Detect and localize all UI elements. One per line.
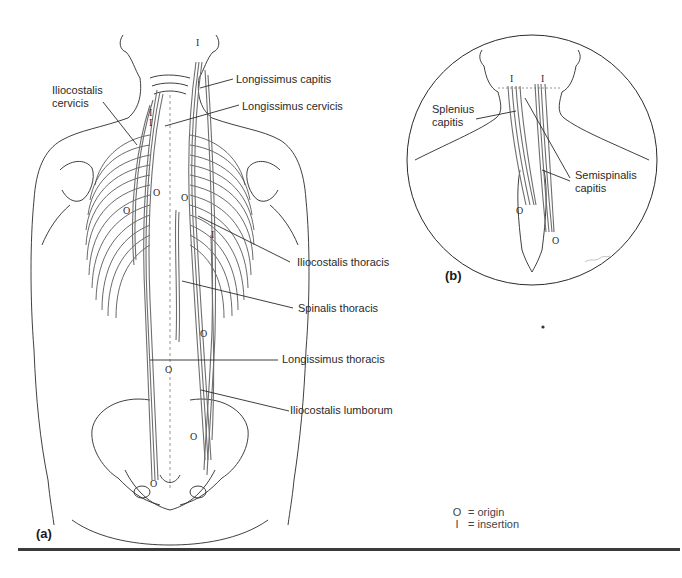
svg-text:O: O (150, 478, 157, 489)
svg-text:I: I (149, 117, 152, 128)
svg-text:O: O (516, 205, 523, 216)
label-splenius-capitis: Splenius capitis (432, 103, 474, 129)
label-iliocostalis-cervicis: Iliocostalis cervicis (52, 84, 103, 110)
label-spinalis-thoracis: Spinalis thoracis (298, 302, 378, 315)
legend-item-insertion: I = insertion (452, 518, 519, 530)
svg-text:O: O (153, 187, 160, 198)
bottom-divider (18, 548, 680, 551)
label-iliocostalis-lumborum: Iliocostalis lumborum (290, 404, 393, 417)
legend-item-origin: O = origin (452, 506, 519, 518)
svg-text:O: O (552, 235, 559, 246)
label-longissimus-thoracis: Longissimus thoracis (282, 353, 385, 366)
origin-symbol: O (452, 506, 462, 518)
svg-text:I: I (211, 229, 214, 240)
svg-text:I: I (541, 73, 544, 84)
svg-text:O: O (190, 431, 197, 442)
label-semispinalis-capitis: Semispinalis capitis (575, 169, 637, 195)
insertion-symbol: I (452, 518, 462, 530)
origin-text: = origin (468, 506, 504, 518)
svg-text:O: O (165, 364, 172, 375)
panel-a-tag: (a) (36, 526, 52, 541)
label-iliocostalis-thoracis: Iliocostalis thoracis (297, 256, 389, 269)
svg-text:O: O (123, 205, 130, 216)
svg-text:I: I (196, 37, 199, 48)
svg-text:I: I (510, 73, 513, 84)
label-longissimus-capitis: Longissimus capitis (236, 73, 331, 86)
svg-text:O: O (200, 328, 207, 339)
panel-b-tag: (b) (445, 268, 462, 283)
insertion-text: = insertion (468, 518, 519, 530)
stray-mark (541, 325, 544, 328)
legend: O = origin I = insertion (452, 506, 519, 530)
svg-text:O: O (181, 192, 188, 203)
label-longissimus-cervicis: Longissimus cervicis (242, 100, 343, 113)
erector-spinae-figure: I I I O O O I O O O O (0, 0, 682, 578)
